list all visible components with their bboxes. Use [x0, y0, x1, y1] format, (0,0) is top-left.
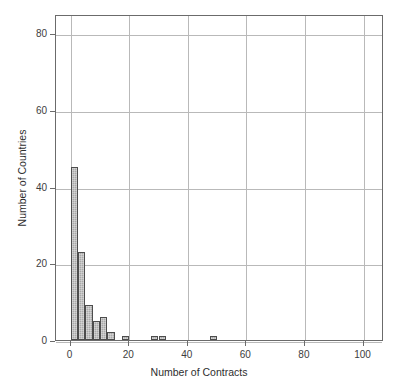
- histogram-bar: [122, 336, 129, 340]
- histogram-bar: [93, 321, 100, 340]
- x-tick-label: 80: [284, 349, 324, 360]
- x-tick-mark: [245, 341, 246, 346]
- histogram-bar: [159, 336, 166, 340]
- x-tick-label: 100: [343, 349, 383, 360]
- y-tick-mark: [50, 34, 55, 35]
- histogram-bar: [210, 336, 217, 340]
- histogram-bars: [56, 16, 382, 340]
- histogram-figure: 020406080100 020406080 Number of Contrac…: [0, 0, 398, 391]
- y-tick-mark: [50, 188, 55, 189]
- plot-area: [55, 15, 383, 341]
- histogram-bar: [85, 305, 92, 340]
- x-tick-mark: [187, 341, 188, 346]
- x-tick-mark: [70, 341, 71, 346]
- x-tick-label: 0: [50, 349, 90, 360]
- x-tick-label: 20: [108, 349, 148, 360]
- y-tick-mark: [50, 111, 55, 112]
- gridline-horizontal: [56, 342, 382, 343]
- histogram-bar: [78, 252, 85, 340]
- x-tick-mark: [304, 341, 305, 346]
- histogram-bar: [107, 332, 114, 340]
- x-axis-label: Number of Contracts: [0, 366, 398, 378]
- y-axis-label: Number of Countries: [16, 15, 28, 341]
- y-tick-mark: [50, 341, 55, 342]
- histogram-bar: [151, 336, 158, 340]
- x-tick-label: 60: [225, 349, 265, 360]
- y-tick-mark: [50, 264, 55, 265]
- x-tick-mark: [363, 341, 364, 346]
- histogram-bar: [71, 167, 78, 340]
- x-tick-mark: [128, 341, 129, 346]
- histogram-bar: [100, 317, 107, 340]
- x-tick-label: 40: [167, 349, 207, 360]
